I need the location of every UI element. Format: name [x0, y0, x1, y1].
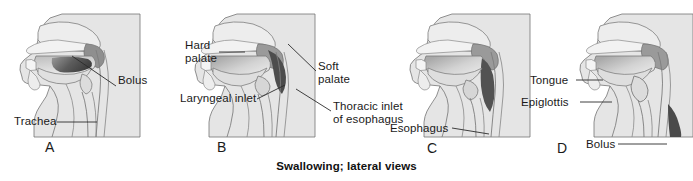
label-bolus-a: Bolus — [118, 74, 147, 87]
figure-caption: Swallowing; lateral views — [0, 160, 693, 172]
mandible-c — [416, 59, 426, 70]
panel-letter-b: B — [217, 139, 227, 155]
mandible-d — [586, 59, 596, 70]
swallowing-figure — [0, 0, 693, 181]
mandible-a — [26, 59, 36, 70]
label-hard-palate-b: Hard palate — [185, 39, 217, 65]
figure-canvas — [0, 0, 693, 181]
label-epiglottis-d: Epiglottis — [521, 96, 569, 109]
panel-letter-d: D — [557, 140, 567, 156]
label-esophagus-c: Esophagus — [390, 122, 448, 135]
panel-c-illustration — [410, 14, 530, 137]
panel-letter-a: A — [45, 139, 55, 155]
label-bolus-d: Bolus — [586, 138, 615, 151]
panel-d-illustration — [580, 14, 693, 137]
label-laryngeal-inlet-b: Laryngeal inlet — [180, 92, 256, 105]
panel-b-illustration — [195, 14, 315, 137]
label-tongue-d: Tongue — [530, 74, 568, 87]
label-trachea-a: Trachea — [14, 115, 56, 128]
panel-letter-c: C — [427, 140, 437, 156]
label-soft-palate-b: Soft palate — [318, 60, 350, 86]
